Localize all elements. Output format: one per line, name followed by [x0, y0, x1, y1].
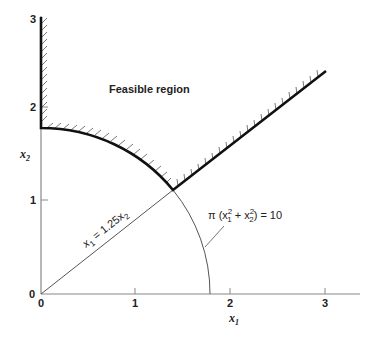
ratio-constraint-line [41, 190, 173, 294]
x-tick-label-2: 2 [227, 297, 233, 309]
y-tick-label-1: 1 [30, 194, 36, 206]
y-axis-label: x2 [19, 147, 30, 163]
x-tick-label-0: 0 [38, 297, 44, 309]
ratio-constraint-label: x1 = 1.25x2 [79, 207, 132, 253]
y-tick-label-2: 2 [30, 101, 36, 113]
x-tick-label-3: 3 [322, 297, 328, 309]
feasible-region-label: Feasible region [109, 83, 190, 95]
axes [41, 16, 360, 294]
boundary-hatching [41, 18, 318, 186]
x-axis-label: x1 [228, 311, 239, 327]
y-tick-label-3: 3 [30, 13, 36, 25]
y-tick-label-0: 0 [29, 288, 35, 300]
feasible-boundary [41, 17, 326, 190]
feasible-region-diagram: 0 1 2 3 0 1 2 3 x1 x2 [0, 0, 381, 358]
x-tick-label-1: 1 [132, 297, 138, 309]
circle-constraint-label: π (x21 + x22) = 10 [208, 207, 282, 224]
circle-label-leader [205, 226, 224, 247]
circle-constraint-curve [173, 190, 210, 294]
